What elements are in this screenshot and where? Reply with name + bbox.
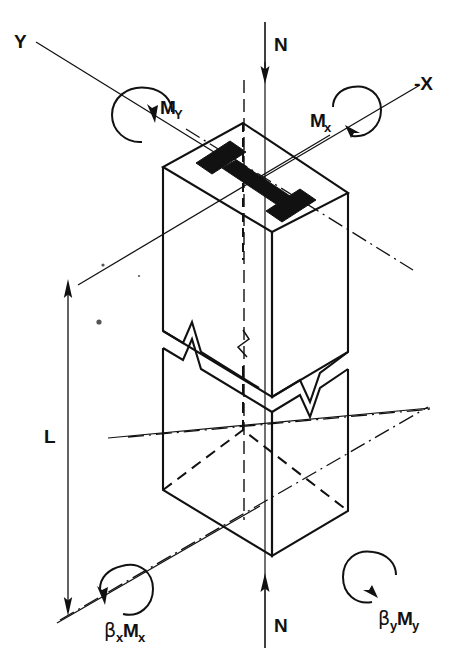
scan-speck-2 [96,319,101,324]
diagram-root: Y -X N M Y [0,0,450,668]
y-axis-label: Y [14,31,27,52]
moment-bymy-m-sub: y [412,618,420,633]
moment-bymy-beta: β [378,607,390,629]
scan-speck-3 [138,275,140,277]
scan-speck-1 [101,263,104,266]
axial-force-top-label: N [274,34,288,55]
axial-force-bottom-label: N [274,615,288,636]
x-axis-label: -X [414,73,433,94]
moment-bymy-m: M [397,608,413,629]
moment-bxmx-beta: β [104,619,116,641]
moment-my-label-sub: Y [174,107,183,122]
moment-bxmx-m-sub: x [138,630,146,645]
moment-bxmx-m: M [123,620,139,641]
moment-mx-label-sub: x [324,120,332,135]
beam-column-diagram: Y -X N M Y [0,0,450,668]
length-dimension-label: L [44,426,56,447]
